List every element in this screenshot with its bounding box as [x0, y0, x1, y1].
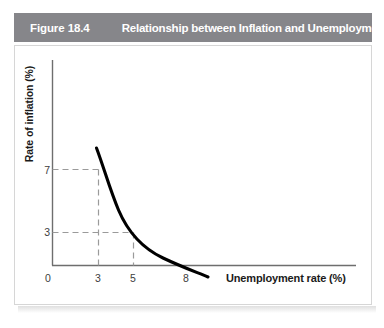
y-tick-label-3: 3 [36, 226, 50, 238]
y-axis-title: Rate of inflation (%) [23, 54, 35, 174]
figure-header-bar: Figure 18.4 Relationship between Inflati… [14, 13, 372, 42]
plot-panel [14, 45, 372, 305]
x-axis-title: Unemployment rate (%) [226, 272, 346, 284]
y-tick-label-7: 7 [36, 164, 50, 176]
x-tick-label-5: 5 [126, 272, 140, 284]
x-tick-label-8: 8 [179, 272, 193, 284]
x-tick-label-0: 0 [41, 272, 55, 284]
x-tick-label-3: 3 [91, 272, 105, 284]
figure-number-label: Figure 18.4 [30, 22, 90, 34]
figure-container: Figure 18.4 Relationship between Inflati… [0, 0, 384, 328]
figure-title: Relationship between Inflation and Unemp… [122, 22, 384, 34]
panel-shadow [18, 306, 376, 313]
